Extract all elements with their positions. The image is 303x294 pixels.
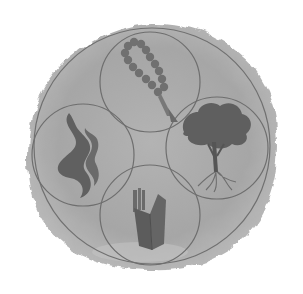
- emblem-illustration: [0, 0, 303, 294]
